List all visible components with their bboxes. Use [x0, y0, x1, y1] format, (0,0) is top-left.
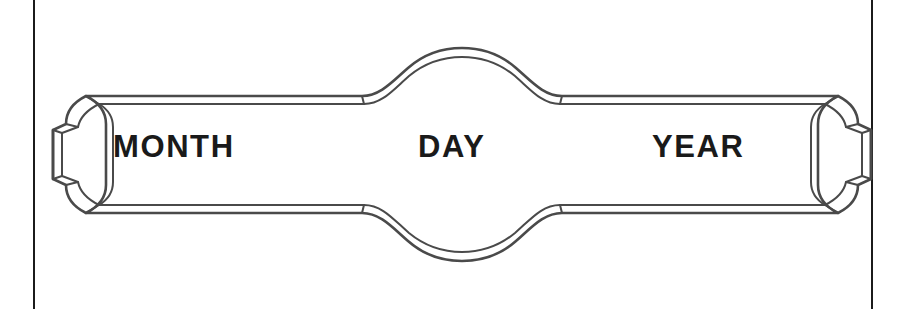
- banner-page: MONTH DAY YEAR: [0, 0, 898, 309]
- field-label-month: MONTH: [113, 131, 235, 162]
- banner-left-finial-outer: [53, 96, 86, 213]
- field-label-year: YEAR: [652, 131, 745, 162]
- banner-right-finial-outer: [838, 96, 871, 213]
- field-label-day: DAY: [418, 131, 485, 162]
